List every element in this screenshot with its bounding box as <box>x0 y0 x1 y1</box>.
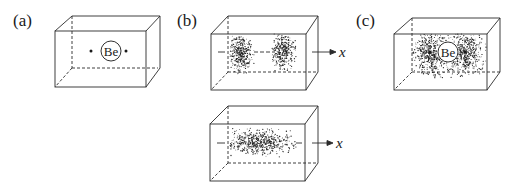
electron-dot-right <box>125 50 128 53</box>
electron-dot-c-right <box>463 50 466 53</box>
density-cloud-elongated <box>230 128 297 158</box>
density-cloud-right <box>272 34 297 72</box>
be-atom-a: Be <box>90 41 128 61</box>
box-b-top <box>211 16 318 90</box>
axis-label-x-bottom: x <box>335 135 343 151</box>
axis-label-x-top: x <box>338 44 346 60</box>
be-label-a: Be <box>104 44 119 59</box>
diagram-canvas: Be x x <box>0 0 514 191</box>
be-label-c: Be <box>441 45 456 60</box>
electron-dot-left <box>90 50 93 53</box>
box-b-bottom <box>210 106 318 181</box>
electron-dot-c-left <box>428 50 431 53</box>
density-cloud-left <box>230 36 255 74</box>
